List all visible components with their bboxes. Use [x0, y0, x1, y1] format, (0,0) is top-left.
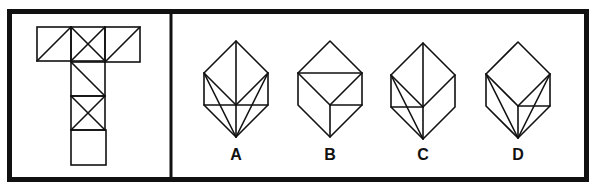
option-b-cube[interactable]: [298, 41, 362, 137]
option-d-cube[interactable]: [486, 42, 550, 138]
net-diagonal: [71, 62, 105, 96]
net-square-column-4: [71, 130, 106, 165]
cube-edge: [391, 75, 423, 107]
option-label-b[interactable]: B: [315, 147, 345, 163]
net-diagonal: [105, 27, 140, 62]
option-label-d[interactable]: D: [503, 147, 533, 163]
cube-net: [37, 27, 140, 165]
option-c-cube[interactable]: [391, 43, 455, 139]
option-label-c[interactable]: C: [408, 147, 438, 163]
cube-edge: [423, 75, 455, 107]
cube-edge: [518, 74, 550, 106]
option-label-a[interactable]: A: [221, 147, 251, 163]
answer-options: [204, 41, 550, 139]
net-diagonal: [37, 27, 71, 61]
option-a-cube[interactable]: [204, 41, 268, 137]
cube-edge: [486, 74, 518, 106]
cube-edge: [298, 73, 330, 105]
cube-edge: [330, 73, 362, 105]
cube-edge: [236, 73, 268, 105]
cube-edge: [204, 73, 236, 105]
cube-edge: [486, 74, 518, 138]
puzzle-figure: ABCD: [0, 0, 594, 189]
